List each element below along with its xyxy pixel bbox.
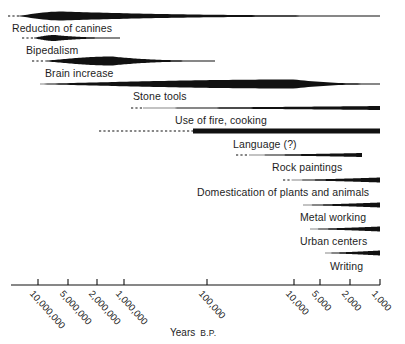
timeline-bar [310, 227, 380, 232]
timeline-bar [325, 251, 380, 256]
timeline-bar-body [249, 153, 362, 157]
axis-title-main: Years [170, 327, 195, 338]
timeline-bar [22, 35, 120, 41]
timeline-bar-body [292, 178, 380, 183]
timeline-bar [99, 129, 380, 134]
timeline-bar [32, 57, 215, 66]
timeline-bar-body [40, 80, 380, 89]
timeline-row-label: Bipedalism [26, 44, 78, 56]
axis-title-suffix: B.P. [200, 328, 216, 338]
timeline-row-label: Writing [330, 260, 363, 272]
timeline-bar [8, 12, 380, 21]
timeline-row-label: Metal working [300, 211, 366, 223]
timeline-bar-body [325, 251, 380, 256]
timeline-bar [131, 106, 380, 110]
timeline-row-label: Stone tools [133, 90, 187, 102]
timeline-bar-body [34, 35, 120, 41]
timeline-bar [236, 153, 362, 157]
axis-title: YearsB.P. [170, 327, 216, 338]
timeline-bar-body [310, 227, 380, 232]
timeline-bar [283, 178, 380, 183]
timeline-bar-body [45, 57, 215, 66]
timeline-row-label: Language (?) [233, 138, 297, 150]
timeline-row-label: Urban centers [300, 235, 367, 247]
timeline-bar [303, 203, 380, 208]
timeline-row-label: Use of fire, cooking [175, 114, 267, 126]
timeline-row-label: Domestication of plants and animals [197, 186, 369, 198]
timeline-row-label: Brain increase [45, 67, 114, 79]
timeline-row-label: Reduction of canines [12, 22, 112, 34]
timeline-bar-body [303, 203, 380, 208]
timeline-bar-body [19, 12, 380, 21]
timeline-row-label: Rock paintings [272, 161, 342, 173]
timeline-bar [40, 80, 380, 89]
time-axis-group [11, 279, 380, 285]
timeline-bar-body [143, 106, 380, 110]
timeline-bar-body [193, 129, 380, 134]
